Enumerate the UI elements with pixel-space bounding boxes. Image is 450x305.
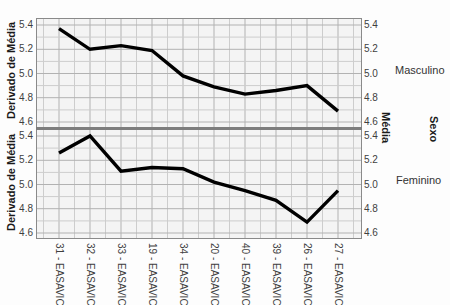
x-tick-label: 20 - EASAVIC	[209, 243, 219, 305]
x-tick-label: 31 - EASAVIC	[54, 243, 64, 305]
y-tick-label-left: 4.6	[16, 117, 33, 127]
x-tick-label: 34 - EASAVIC	[178, 243, 188, 305]
y-tick-label-left: 5.0	[16, 180, 33, 190]
y-tick-label-left: 5.2	[16, 44, 33, 54]
y-tick-label-left: 4.8	[16, 93, 33, 103]
y-tick-label-right: 4.6	[364, 228, 378, 238]
y-tick-label-left: 5.4	[16, 20, 33, 30]
plot-grid	[37, 130, 361, 238]
x-tick-label: 33 - EASAVIC	[116, 243, 126, 305]
y-tick-label-right: 5.0	[364, 69, 378, 79]
y-tick-label-right: 5.4	[364, 131, 378, 141]
y-tick-label-right: 4.6	[364, 117, 378, 127]
plot-grid	[37, 19, 361, 127]
panel-masculino-plot	[36, 18, 362, 128]
y-tick-label-left: 4.8	[16, 204, 33, 214]
x-tick-label: 26 - EASAVIC	[302, 243, 312, 305]
y-tick-label-left: 5.0	[16, 69, 33, 79]
y-tick-label-right: 5.2	[364, 155, 378, 165]
x-tick-label: 19 - EASAVIC	[147, 243, 157, 305]
y-tick-label-right: 5.0	[364, 180, 378, 190]
x-tick-label: 27 - EASAVIC	[333, 243, 343, 305]
x-tick-label: 32 - EASAVIC	[85, 243, 95, 305]
right-axis-title-media: Média	[380, 112, 392, 143]
series-label-masculino: Masculino	[395, 64, 445, 76]
x-tick-label: 39 - EASAVIC	[271, 243, 281, 305]
panel-divider	[36, 127, 362, 130]
y-tick-label-right: 5.2	[364, 44, 378, 54]
y-tick-label-left: 5.2	[16, 155, 33, 165]
x-tick-label: 40 - EASAVIC	[240, 243, 250, 305]
figure-title: Fig 10 Escala Média EASAVIC por Sexo	[2, 4, 207, 5]
paneled-line-chart: Fig 10 Escala Média EASAVIC por Sexo Der…	[0, 0, 450, 305]
panel-variable-title-sexo: Sexo	[428, 116, 440, 142]
series-label-feminino: Feminino	[396, 174, 441, 186]
y-tick-label-right: 4.8	[364, 204, 378, 214]
panel-feminino-plot	[36, 129, 362, 239]
figure-title-clipped: Fig 10 Escala Média EASAVIC por Sexo	[2, 0, 302, 5]
y-tick-label-right: 5.4	[364, 20, 378, 30]
y-tick-label-right: 4.8	[364, 93, 378, 103]
y-tick-label-left: 4.6	[16, 228, 33, 238]
y-tick-label-left: 5.4	[16, 131, 33, 141]
